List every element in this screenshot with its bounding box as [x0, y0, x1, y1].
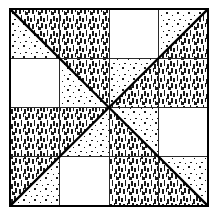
patch-bl-white-square [60, 157, 110, 206]
patch-tl-white-square [10, 58, 60, 107]
quilt-block-figure: Quilt Block Pattern Diagram Square quilt… [0, 0, 216, 219]
quilt-diagram: Quilt Block Pattern Diagram Square quilt… [0, 0, 216, 219]
patch-tr-white-square [109, 9, 159, 58]
patch-br-white-square [159, 108, 209, 157]
